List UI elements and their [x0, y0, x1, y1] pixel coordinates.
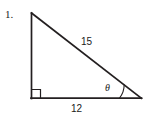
theta-angle-label: θ	[105, 83, 110, 93]
problem-number: 1.	[5, 9, 13, 20]
base-length-label: 12	[71, 104, 82, 114]
right-angle-marker-icon	[32, 90, 41, 99]
hypotenuse-length-label: 15	[81, 37, 92, 47]
angle-arc-icon	[120, 85, 125, 99]
triangle-hypotenuse	[32, 13, 142, 98]
triangle-figure: 1. 15 12 θ	[0, 0, 153, 121]
